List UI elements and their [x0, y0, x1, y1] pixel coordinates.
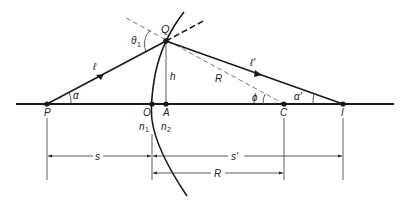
label-R-radius: R — [215, 73, 222, 84]
label-I: I — [341, 107, 344, 118]
label-C: C — [280, 107, 288, 118]
label-alpha: α — [73, 90, 79, 101]
label-s-prime: s' — [231, 151, 239, 162]
incident-ray — [47, 41, 166, 104]
label-A: A — [162, 107, 170, 118]
label-R-dim: R — [214, 168, 221, 179]
point-I — [340, 101, 345, 106]
label-n1-sub: 1 — [145, 126, 149, 133]
label-O: O — [143, 107, 151, 118]
point-Q — [163, 38, 169, 44]
theta1-arc — [145, 30, 150, 52]
refracted-ray-arrow-icon — [254, 70, 262, 77]
label-s: s — [95, 151, 100, 162]
label-Q: Q — [161, 23, 170, 35]
label-h: h — [170, 71, 176, 82]
label-alpha-prime: α' — [294, 91, 303, 102]
label-theta1-sub: 1 — [137, 41, 141, 48]
label-phi: ϕ — [252, 92, 258, 103]
label-ell-prime: ℓ' — [249, 57, 256, 68]
refraction-diagram: Q θ 1 ℓ ℓ' h R ϕ α α' P O A C I n 1 n 2 … — [0, 0, 410, 207]
phi-arc — [263, 94, 265, 104]
alpha-prime-arc — [313, 94, 314, 104]
point-A — [163, 101, 168, 106]
label-n2-sub: 2 — [167, 126, 171, 133]
label-P: P — [44, 107, 51, 118]
point-C — [281, 101, 286, 106]
alpha-arc — [69, 92, 71, 104]
point-O — [149, 101, 154, 106]
point-P — [44, 101, 49, 106]
label-ell: ℓ — [92, 61, 97, 72]
